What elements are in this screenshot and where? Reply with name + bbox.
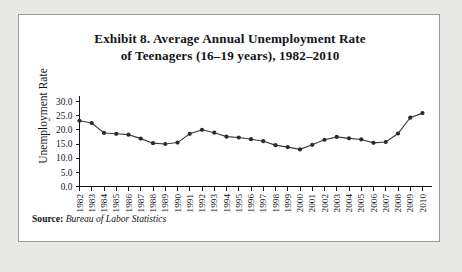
data-point-marker [114, 132, 118, 136]
data-point-marker [126, 133, 130, 137]
x-tick-label: 1985 [111, 194, 121, 213]
chart-plot-area: 0.05.010.015.020.025.030.019821983198419… [19, 15, 441, 243]
x-tick-label: 2009 [405, 194, 415, 213]
data-point-marker [237, 135, 241, 139]
y-tick-label: 10.0 [56, 153, 73, 163]
data-point-marker [310, 143, 314, 147]
y-tick-label: 30.0 [56, 97, 73, 107]
x-tick-label: 1989 [160, 194, 170, 213]
data-point-marker [384, 140, 388, 144]
data-point-marker [420, 111, 424, 115]
x-tick-label: 1986 [124, 194, 134, 213]
x-tick-label: 2007 [381, 194, 391, 213]
data-point-marker [224, 135, 228, 139]
x-tick-label: 2008 [393, 194, 403, 213]
data-point-marker [335, 135, 339, 139]
x-tick-label: 2002 [320, 194, 330, 213]
source-label: Source: [32, 213, 63, 224]
y-tick-label: 5.0 [61, 168, 73, 178]
data-point-marker [249, 137, 253, 141]
data-point-marker [163, 142, 167, 146]
data-point-marker [188, 132, 192, 136]
data-point-marker [261, 139, 265, 143]
x-tick-label: 1997 [258, 194, 268, 213]
figure-container: Exhibit 8. Average Annual Unemployment R… [18, 14, 440, 242]
x-tick-label: 2000 [295, 194, 305, 213]
series-line [80, 113, 423, 149]
data-point-marker [322, 138, 326, 142]
y-tick-label: 0.0 [61, 182, 73, 192]
y-tick-label: 20.0 [56, 125, 73, 135]
y-axis-title: Unemployment Rate [37, 61, 49, 171]
data-point-marker [212, 131, 216, 135]
x-tick-label: 1996 [246, 194, 256, 213]
data-point-marker [90, 121, 94, 125]
x-tick-label: 1998 [271, 194, 281, 213]
x-tick-label: 2006 [369, 194, 379, 213]
data-point-marker [102, 131, 106, 135]
x-tick-label: 1992 [197, 194, 207, 213]
data-point-marker [175, 140, 179, 144]
data-point-marker [347, 136, 351, 140]
x-tick-label: 2004 [344, 194, 354, 213]
data-point-marker [273, 143, 277, 147]
x-tick-label: 1983 [87, 194, 97, 213]
x-tick-label: 1991 [185, 194, 195, 213]
data-point-marker [408, 116, 412, 120]
source-value: Bureau of Labor Statistics [66, 213, 167, 224]
x-tick-label: 2010 [418, 194, 428, 213]
x-tick-label: 1993 [209, 194, 219, 213]
x-tick-label: 1995 [234, 194, 244, 213]
data-point-marker [77, 119, 81, 123]
x-tick-label: 2003 [332, 194, 342, 213]
data-point-marker [298, 147, 302, 151]
y-tick-label: 25.0 [56, 111, 73, 121]
data-point-marker [200, 128, 204, 132]
line-chart-svg: 0.05.010.015.020.025.030.019821983198419… [19, 15, 441, 243]
data-point-marker [371, 141, 375, 145]
x-tick-label: 2005 [356, 194, 366, 213]
data-point-marker [359, 137, 363, 141]
x-tick-label: 2001 [307, 194, 317, 213]
x-tick-label: 1990 [173, 194, 183, 213]
x-tick-label: 1988 [148, 194, 158, 213]
data-point-marker [151, 141, 155, 145]
x-tick-label: 1994 [222, 194, 232, 213]
data-point-marker [396, 131, 400, 135]
x-tick-label: 1984 [99, 194, 109, 213]
data-point-marker [286, 145, 290, 149]
x-tick-label: 1999 [283, 194, 293, 213]
x-tick-label: 1987 [136, 194, 146, 213]
x-tick-label: 1982 [75, 194, 85, 213]
data-point-marker [139, 137, 143, 141]
y-tick-label: 15.0 [56, 139, 73, 149]
source-note: Source: Bureau of Labor Statistics [32, 213, 166, 224]
